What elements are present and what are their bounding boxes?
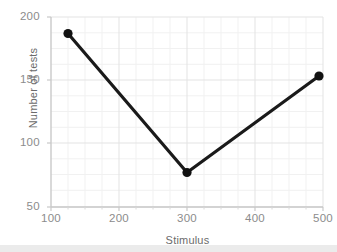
chart-figure: 200 150 100 50 100 200 300 400 500 Numbe… (0, 0, 337, 252)
y-axis-title: Number of tests (23, 8, 43, 168)
data-point-marker (63, 29, 72, 38)
footer-bar (0, 245, 337, 252)
x-tick-label-200: 200 (99, 212, 139, 224)
y-tick-label-50: 50 (8, 200, 40, 212)
x-tick-label-400: 400 (235, 212, 275, 224)
x-tick-label-300: 300 (167, 212, 207, 224)
data-point-marker (314, 71, 323, 80)
x-tick-label-500: 500 (303, 212, 337, 224)
y-axis-title-text: Number of tests (27, 48, 39, 129)
data-point-marker (182, 168, 191, 177)
x-tick-label-100: 100 (31, 212, 71, 224)
